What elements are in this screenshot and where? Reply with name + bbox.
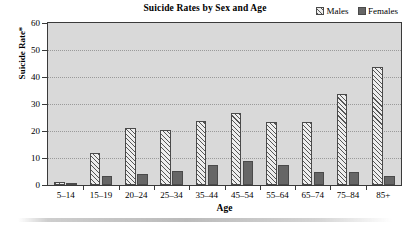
y-tick-label: 30 <box>10 100 40 109</box>
x-tick-mark <box>225 186 226 190</box>
bar-males-35-44 <box>196 121 207 185</box>
x-tick-mark <box>260 186 261 190</box>
x-tick-mark <box>330 186 331 190</box>
x-tick-label: 65–74 <box>295 190 330 200</box>
gridline <box>48 131 401 132</box>
scan-artifact <box>18 218 392 222</box>
bar-females-25-34 <box>172 171 183 185</box>
x-axis-title: Age <box>47 203 402 213</box>
x-tick-label: 25–34 <box>154 190 189 200</box>
bar-males-55-64 <box>266 122 277 185</box>
legend-swatch-females-icon <box>358 7 366 15</box>
bar-males-15-19 <box>90 153 101 185</box>
bar-females-15-19 <box>102 176 113 185</box>
legend-label-males: Males <box>327 6 349 16</box>
x-tick-label: 35–44 <box>189 190 224 200</box>
y-tick-label: 60 <box>10 19 40 28</box>
x-tick-label: 5–14 <box>48 190 83 200</box>
y-tick-label: 10 <box>10 154 40 163</box>
x-tick-label: 45–54 <box>225 190 260 200</box>
legend-entry-males: Males <box>316 6 349 16</box>
plot-area <box>47 22 402 186</box>
bar-males-75-84 <box>337 94 348 185</box>
y-tick-label: 20 <box>10 127 40 136</box>
gridline <box>48 50 401 51</box>
bar-males-25-34 <box>160 130 171 185</box>
x-tick-label: 20–24 <box>119 190 154 200</box>
y-tick-label: 0 <box>10 181 40 190</box>
bar-females-75-84 <box>349 172 360 185</box>
bar-males-85+ <box>372 67 383 185</box>
x-tick-mark <box>154 186 155 190</box>
suicide-rates-bar-chart: Suicide Rates by Sex and Age Suicide Rat… <box>0 0 410 228</box>
x-tick-label: 75–84 <box>330 190 365 200</box>
bar-females-5-14 <box>66 183 77 185</box>
bar-males-20-24 <box>125 128 136 186</box>
bar-males-5-14 <box>54 182 65 185</box>
gridline <box>48 77 401 78</box>
x-tick-label: 55–64 <box>260 190 295 200</box>
gridline <box>48 158 401 159</box>
bar-females-55-64 <box>278 165 289 185</box>
y-tick-label: 40 <box>10 73 40 82</box>
bar-females-65-74 <box>314 172 325 185</box>
gridline <box>48 104 401 105</box>
legend-swatch-males-icon <box>316 7 324 15</box>
x-tick-label: 15–19 <box>83 190 118 200</box>
x-tick-mark <box>189 186 190 190</box>
legend-entry-females: Females <box>358 6 399 16</box>
chart-legend: Males Females <box>316 6 398 16</box>
bar-females-35-44 <box>208 165 219 185</box>
y-tick-label: 50 <box>10 46 40 55</box>
x-tick-mark <box>295 186 296 190</box>
x-tick-mark <box>83 186 84 190</box>
bar-males-45-54 <box>231 113 242 185</box>
x-tick-label: 85+ <box>366 190 401 200</box>
bar-females-20-24 <box>137 174 148 185</box>
x-tick-mark <box>366 186 367 190</box>
x-tick-mark <box>119 186 120 190</box>
legend-label-females: Females <box>368 6 398 16</box>
bar-males-65-74 <box>302 122 313 185</box>
bar-females-85+ <box>384 176 395 185</box>
bar-females-45-54 <box>243 161 254 185</box>
